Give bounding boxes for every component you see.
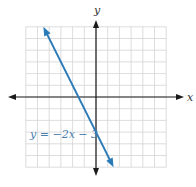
x-axis-left-arrow-icon	[8, 94, 16, 100]
equation-label: y = −2x − 3	[29, 128, 98, 141]
axes	[8, 20, 184, 176]
y-axis-up-arrow-icon	[93, 20, 99, 28]
y-axis-down-arrow-icon	[93, 168, 99, 176]
coordinate-plane-chart: x y y = −2x − 3	[0, 0, 196, 187]
y-axis-label: y	[93, 4, 101, 17]
x-axis-right-arrow-icon	[176, 94, 184, 100]
x-axis-label: x	[187, 91, 194, 104]
